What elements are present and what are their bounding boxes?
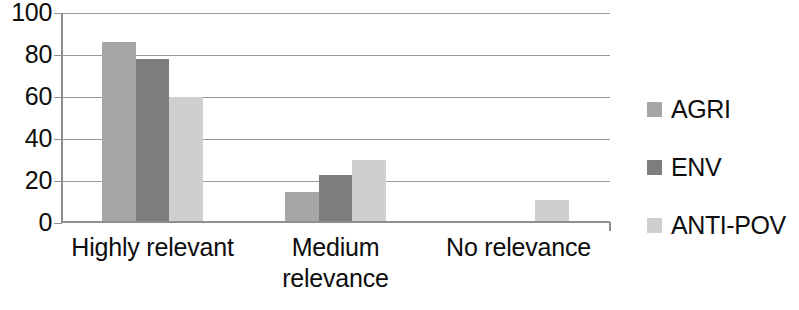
plot-area bbox=[61, 13, 610, 223]
y-tick-label-0: 0 bbox=[0, 210, 52, 235]
x-axis-category-labels: Highly relevantMediumrelevanceNo relevan… bbox=[61, 232, 610, 310]
bar-anti-pov-1 bbox=[352, 160, 386, 223]
y-tick-label-40: 40 bbox=[0, 126, 52, 151]
y-tick-mark-0 bbox=[54, 223, 62, 224]
x-category-label-line: relevance bbox=[244, 263, 427, 294]
bar-anti-pov-0 bbox=[169, 97, 203, 223]
legend-label: ENV bbox=[671, 154, 721, 180]
legend-swatch-icon-env bbox=[647, 160, 662, 175]
y-tick-label-100: 100 bbox=[0, 0, 52, 25]
x-category-label-0: Highly relevant bbox=[61, 232, 244, 263]
legend-item-anti-pov[interactable]: ANTI-POV bbox=[647, 212, 786, 238]
x-category-label-line: Highly relevant bbox=[61, 232, 244, 263]
bar-env-1 bbox=[319, 175, 353, 223]
y-tick-label-20: 20 bbox=[0, 168, 52, 193]
legend-label: AGRI bbox=[671, 96, 731, 122]
bar-anti-pov-2 bbox=[535, 200, 569, 223]
bar-agri-0 bbox=[102, 42, 136, 223]
bar-agri-1 bbox=[285, 192, 319, 224]
legend-item-env[interactable]: ENV bbox=[647, 154, 721, 180]
y-axis-tick-labels: 020406080100 bbox=[0, 0, 52, 310]
bar-env-0 bbox=[136, 59, 170, 223]
x-category-label-line: Medium bbox=[244, 232, 427, 263]
x-category-label-2: No relevance bbox=[427, 232, 610, 263]
bar-chart: 020406080100 Highly relevantMediumreleva… bbox=[0, 0, 799, 310]
legend-label: ANTI-POV bbox=[671, 212, 786, 238]
legend-swatch-icon-agri bbox=[647, 102, 662, 117]
legend-swatch-icon-anti-pov bbox=[647, 218, 662, 233]
bars-layer bbox=[61, 13, 610, 223]
legend-item-agri[interactable]: AGRI bbox=[647, 96, 731, 122]
y-tick-label-80: 80 bbox=[0, 42, 52, 67]
y-tick-label-60: 60 bbox=[0, 84, 52, 109]
x-category-label-1: Mediumrelevance bbox=[244, 232, 427, 294]
x-category-label-line: No relevance bbox=[427, 232, 610, 263]
x-axis-line bbox=[61, 221, 610, 223]
x-axis-end-tick bbox=[609, 222, 611, 231]
